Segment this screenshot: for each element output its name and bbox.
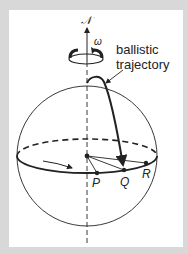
point-p bbox=[95, 171, 99, 175]
point-q bbox=[122, 168, 126, 172]
center-point bbox=[85, 154, 90, 159]
caption-line-1: ballistic bbox=[116, 42, 169, 57]
ballistic-trajectory bbox=[87, 77, 123, 165]
rotation-arrow-icon bbox=[69, 47, 103, 64]
label-p: P bbox=[92, 176, 100, 190]
trajectory-caption: ballistic trajectory bbox=[116, 42, 169, 72]
point-r bbox=[144, 161, 148, 165]
caption-line-2: trajectory bbox=[116, 57, 169, 72]
north-label: 𝒩 bbox=[81, 14, 95, 26]
sphere-diagram: 𝒩 ω P Q R bbox=[0, 0, 188, 254]
rotation-direction-arrow bbox=[43, 161, 72, 168]
radius-to-p bbox=[87, 156, 97, 173]
omega-label: ω bbox=[94, 36, 102, 47]
label-q: Q bbox=[120, 175, 129, 189]
label-r: R bbox=[142, 167, 151, 181]
